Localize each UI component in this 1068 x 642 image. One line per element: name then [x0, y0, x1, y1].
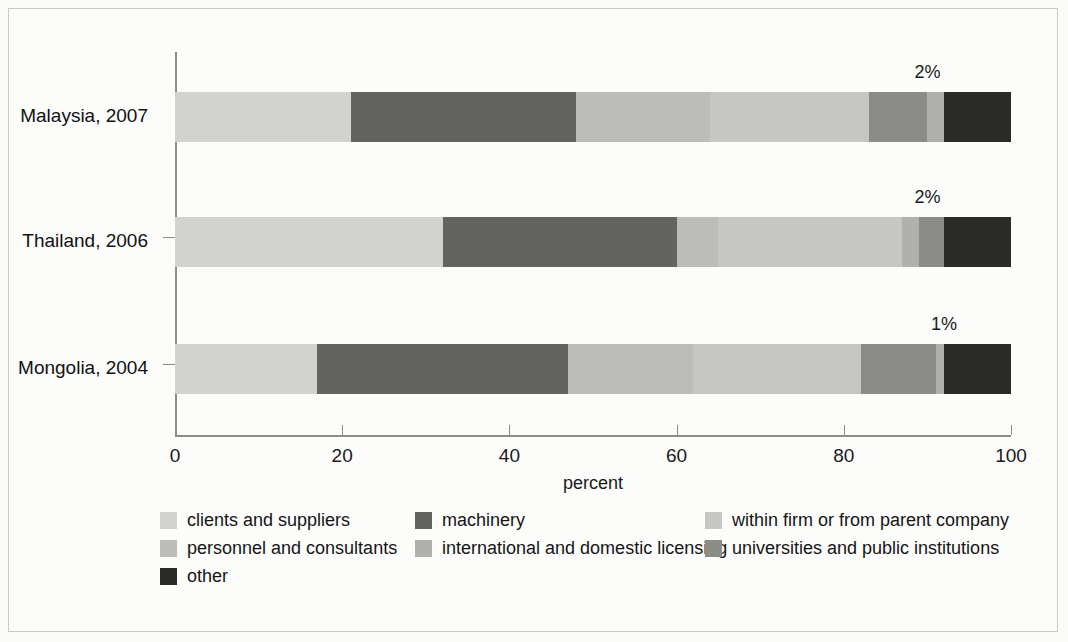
legend-swatch-icon: [160, 568, 177, 585]
chart-legend: clients and suppliersmachinerywithin fir…: [160, 510, 1020, 594]
percent-callout: 2%: [914, 187, 940, 208]
legend-item-machinery[interactable]: machinery: [415, 510, 705, 530]
legend-label: other: [187, 566, 228, 586]
y-axis-divider-tick: [163, 364, 175, 365]
legend-label: within firm or from parent company: [732, 510, 1009, 530]
bar-segment-international-and-domestic-licensing: [902, 217, 919, 267]
legend-item-personnel-and-consultants[interactable]: personnel and consultants: [160, 538, 415, 558]
bar-segment-machinery: [443, 217, 677, 267]
legend-label: machinery: [442, 510, 525, 530]
x-axis-tick-label: 100: [995, 445, 1027, 467]
bar-segment-universities-and-public-institutions: [919, 217, 944, 267]
legend-swatch-icon: [705, 512, 722, 529]
bar-segment-international-and-domestic-licensing: [936, 344, 944, 394]
legend-item-international-and-domestic-licensing[interactable]: international and domestic licensing: [415, 538, 705, 558]
bar-segment-clients-and-suppliers: [175, 217, 443, 267]
legend-swatch-icon: [705, 540, 722, 557]
bar-segment-personnel-and-consultants: [677, 217, 719, 267]
bar-segment-within-firm-or-from-parent-company: [693, 344, 860, 394]
legend-item-within-firm-or-from-parent-company[interactable]: within firm or from parent company: [705, 510, 1015, 530]
percent-callout: 2%: [914, 62, 940, 83]
bar-segment-other: [944, 217, 1011, 267]
x-axis-title: percent: [563, 473, 623, 494]
legend-swatch-icon: [160, 540, 177, 557]
bar-segment-other: [944, 344, 1011, 394]
legend-label: international and domestic licensing: [442, 538, 727, 558]
bar-segment-personnel-and-consultants: [576, 92, 710, 142]
x-axis-line: [175, 435, 1011, 437]
bar-segment-other: [944, 92, 1011, 142]
legend-row: other: [160, 566, 1020, 586]
legend-swatch-icon: [415, 512, 432, 529]
legend-label: personnel and consultants: [187, 538, 397, 558]
x-axis-tick-label: 60: [666, 445, 687, 467]
bar-mongolia: [175, 344, 1011, 394]
legend-row: personnel and consultantsinternational a…: [160, 538, 1020, 558]
legend-swatch-icon: [160, 512, 177, 529]
bar-malaysia: [175, 92, 1011, 142]
bar-thailand: [175, 217, 1011, 267]
legend-item-universities-and-public-institutions[interactable]: universities and public institutions: [705, 538, 1015, 558]
bar-segment-universities-and-public-institutions: [861, 344, 936, 394]
legend-swatch-icon: [415, 540, 432, 557]
stacked-bar-chart-figure: 020406080100 Malaysia, 2007Thailand, 200…: [0, 0, 1068, 642]
bar-segment-within-firm-or-from-parent-company: [710, 92, 869, 142]
legend-row: clients and suppliersmachinerywithin fir…: [160, 510, 1020, 530]
bar-segment-universities-and-public-institutions: [869, 92, 928, 142]
percent-callout: 1%: [931, 314, 957, 335]
x-axis-tick-label: 80: [833, 445, 854, 467]
bar-segment-machinery: [317, 344, 568, 394]
legend-item-other[interactable]: other: [160, 566, 415, 586]
y-axis-divider-tick: [163, 237, 175, 238]
bar-segment-clients-and-suppliers: [175, 92, 351, 142]
x-axis-tick-label: 20: [332, 445, 353, 467]
plot-area: [175, 52, 1011, 435]
category-label-thailand: Thailand, 2006: [0, 230, 162, 252]
bar-segment-international-and-domestic-licensing: [927, 92, 944, 142]
bar-segment-personnel-and-consultants: [568, 344, 693, 394]
category-label-malaysia: Malaysia, 2007: [0, 105, 162, 127]
x-axis-tick-label: 0: [170, 445, 181, 467]
bar-segment-within-firm-or-from-parent-company: [718, 217, 902, 267]
legend-label: clients and suppliers: [187, 510, 350, 530]
x-axis-tick-label: 40: [499, 445, 520, 467]
legend-item-clients-and-suppliers[interactable]: clients and suppliers: [160, 510, 415, 530]
x-axis-tick: [1011, 425, 1012, 435]
legend-label: universities and public institutions: [732, 538, 999, 558]
bar-segment-clients-and-suppliers: [175, 344, 317, 394]
category-label-mongolia: Mongolia, 2004: [0, 357, 162, 379]
bar-segment-machinery: [351, 92, 577, 142]
